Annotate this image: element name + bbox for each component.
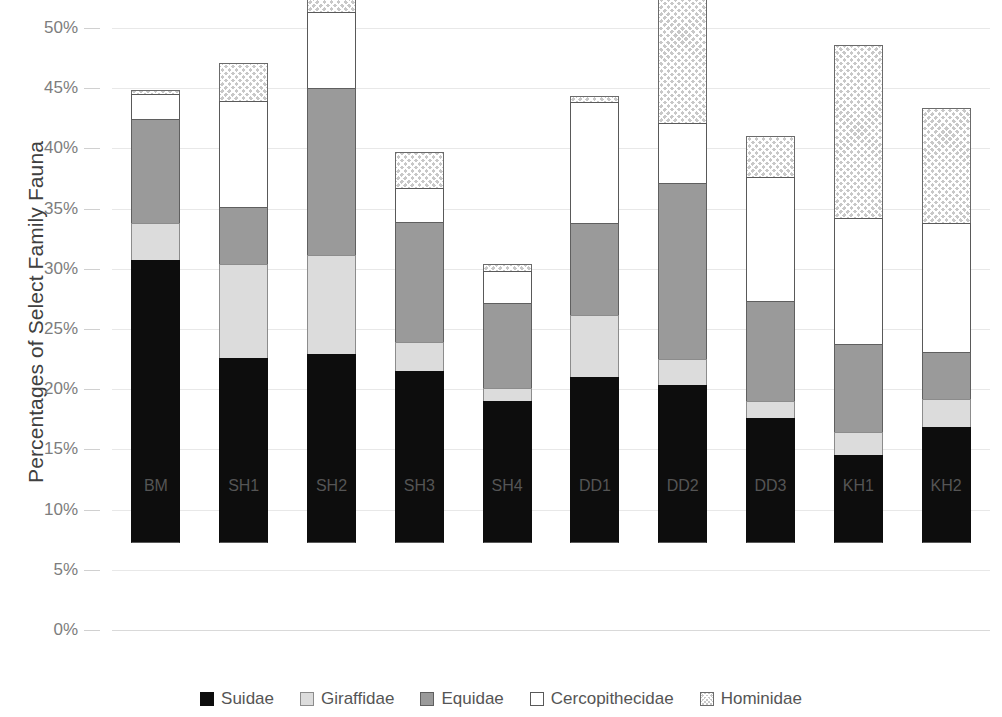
bar-segment-suidae[interactable] <box>131 260 180 543</box>
bar-segment-equidae[interactable] <box>131 119 180 223</box>
bar-segment-suidae[interactable] <box>834 455 883 543</box>
bar-segment-equidae[interactable] <box>307 88 356 255</box>
bar-segment-cercopithecidae[interactable] <box>746 177 795 301</box>
bar-segment-cercopithecidae[interactable] <box>131 94 180 119</box>
gridline <box>112 630 990 631</box>
bar-segment-giraffidae[interactable] <box>395 342 444 371</box>
bar-segment-cercopithecidae[interactable] <box>483 271 532 304</box>
x-tick-label: SH4 <box>483 477 532 495</box>
bar-segment-equidae[interactable] <box>395 222 444 342</box>
y-tick-mark <box>84 570 100 571</box>
y-tick-label: 35% <box>44 199 78 219</box>
bar-segment-cercopithecidae[interactable] <box>658 123 707 183</box>
bar-segment-suidae[interactable] <box>395 371 444 543</box>
bar-segment-equidae[interactable] <box>922 352 971 399</box>
bar-stack[interactable] <box>219 63 268 543</box>
y-tick-mark <box>84 389 100 390</box>
x-tick-label: KH2 <box>922 477 971 495</box>
bar-segment-suidae[interactable] <box>307 354 356 543</box>
bar-segment-giraffidae[interactable] <box>570 315 619 376</box>
bar-segment-giraffidae[interactable] <box>658 359 707 385</box>
x-tick-label: SH2 <box>307 477 356 495</box>
legend-label: Giraffidae <box>321 689 394 709</box>
legend-swatch-icon <box>700 692 714 706</box>
bar-segment-hominidae[interactable] <box>834 45 883 218</box>
bar-segment-equidae[interactable] <box>483 303 532 387</box>
y-tick-label: 50% <box>44 18 78 38</box>
y-tick-mark <box>84 28 100 29</box>
y-tick-label: 5% <box>53 560 78 580</box>
bar-stack[interactable] <box>307 0 356 543</box>
x-tick-label: BM <box>131 477 180 495</box>
bar-segment-cercopithecidae[interactable] <box>570 102 619 222</box>
bar-segment-cercopithecidae[interactable] <box>922 223 971 352</box>
legend-label: Hominidae <box>721 689 802 709</box>
y-tick-label: 0% <box>53 620 78 640</box>
bar-segment-hominidae[interactable] <box>219 63 268 102</box>
bar-segment-equidae[interactable] <box>219 207 268 264</box>
bar-segment-giraffidae[interactable] <box>746 401 795 418</box>
y-tick-label: 10% <box>44 500 78 520</box>
x-tick-label: KH1 <box>834 477 883 495</box>
x-tick-label: DD3 <box>746 477 795 495</box>
bar-segment-giraffidae[interactable] <box>483 388 532 401</box>
legend-swatch-icon <box>300 692 314 706</box>
bar-segment-giraffidae[interactable] <box>834 432 883 455</box>
y-tick-mark <box>84 148 100 149</box>
y-tick-mark <box>84 329 100 330</box>
bar-stack[interactable] <box>834 45 883 543</box>
y-tick-mark <box>84 88 100 89</box>
bar-segment-cercopithecidae[interactable] <box>395 188 444 222</box>
y-tick-label: 20% <box>44 379 78 399</box>
bar-segment-suidae[interactable] <box>219 358 268 543</box>
legend-swatch-icon <box>530 692 544 706</box>
bar-segment-hominidae[interactable] <box>922 108 971 222</box>
bar-segment-suidae[interactable] <box>658 385 707 543</box>
legend-item-suidae[interactable]: Suidae <box>200 689 274 709</box>
bar-segment-cercopithecidae[interactable] <box>219 101 268 207</box>
bar-segment-equidae[interactable] <box>570 223 619 316</box>
y-tick-label: 40% <box>44 138 78 158</box>
legend-item-giraffidae[interactable]: Giraffidae <box>300 689 394 709</box>
bar-segment-giraffidae[interactable] <box>307 255 356 354</box>
legend-item-hominidae[interactable]: Hominidae <box>700 689 802 709</box>
bar-segment-giraffidae[interactable] <box>922 399 971 428</box>
bar-segment-hominidae[interactable] <box>307 0 356 12</box>
bar-segment-hominidae[interactable] <box>746 136 795 177</box>
bar-stack[interactable] <box>483 264 532 543</box>
bar-segment-cercopithecidae[interactable] <box>307 12 356 88</box>
bar-segment-hominidae[interactable] <box>483 264 532 271</box>
bar-segment-hominidae[interactable] <box>395 152 444 188</box>
y-tick-mark <box>84 269 100 270</box>
bar-segment-equidae[interactable] <box>834 344 883 432</box>
bar-segment-suidae[interactable] <box>483 401 532 543</box>
bar-stack[interactable] <box>570 96 619 543</box>
bar-segment-giraffidae[interactable] <box>219 264 268 358</box>
x-tick-label: DD1 <box>570 477 619 495</box>
bar-segment-equidae[interactable] <box>746 301 795 401</box>
y-tick-label: 25% <box>44 319 78 339</box>
bar-stack[interactable] <box>131 90 180 543</box>
bar-segment-giraffidae[interactable] <box>131 223 180 260</box>
bar-segment-hominidae[interactable] <box>658 0 707 123</box>
bars-layer: BMSH1SH2SH3SH4DD1DD2DD3KH1KH2 <box>112 0 990 630</box>
legend-swatch-icon <box>200 692 214 706</box>
chart-legend: SuidaeGiraffidaeEquidaeCercopithecidaeHo… <box>0 689 1002 709</box>
stacked-bar-chart: Percentages of Select Family Fauna 0%5%1… <box>0 0 1002 717</box>
legend-label: Suidae <box>221 689 274 709</box>
bar-segment-cercopithecidae[interactable] <box>834 218 883 344</box>
y-axis-tick-labels: 0%5%10%15%20%25%30%35%40%45%50% <box>0 0 112 717</box>
legend-item-cercopithecidae[interactable]: Cercopithecidae <box>530 689 674 709</box>
y-tick-label: 15% <box>44 439 78 459</box>
y-tick-mark <box>84 209 100 210</box>
legend-label: Cercopithecidae <box>551 689 674 709</box>
y-tick-label: 45% <box>44 78 78 98</box>
legend-label: Equidae <box>441 689 503 709</box>
legend-item-equidae[interactable]: Equidae <box>420 689 503 709</box>
bar-stack[interactable] <box>658 0 707 543</box>
bar-segment-suidae[interactable] <box>570 377 619 543</box>
bar-segment-equidae[interactable] <box>658 183 707 359</box>
y-tick-mark <box>84 510 100 511</box>
x-tick-label: DD2 <box>658 477 707 495</box>
x-tick-label: SH1 <box>219 477 268 495</box>
